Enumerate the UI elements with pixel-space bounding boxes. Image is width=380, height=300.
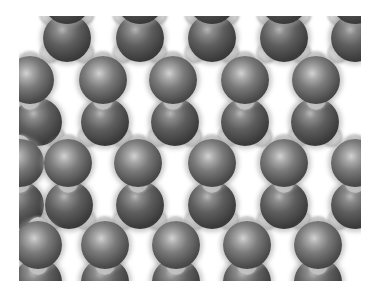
lattice-frame xyxy=(19,16,361,281)
oxygen-atom xyxy=(19,139,44,187)
oxygen-atom xyxy=(188,139,236,187)
oxygen-atom xyxy=(79,56,127,104)
oxygen-atom xyxy=(19,56,54,104)
oxygen-atom xyxy=(292,56,340,104)
oxygen-atom xyxy=(294,221,342,269)
oxygen-atom xyxy=(221,56,269,104)
oxygen-atom xyxy=(152,221,200,269)
oxygen-atom xyxy=(44,139,92,187)
oxygen-atom xyxy=(81,221,129,269)
oxygen-atom xyxy=(114,139,162,187)
oxygen-atom xyxy=(223,221,271,269)
molecular-model-image xyxy=(0,0,380,300)
oxygen-atom xyxy=(260,139,308,187)
oxygen-atom xyxy=(149,56,197,104)
oxygen-atom xyxy=(19,221,62,269)
